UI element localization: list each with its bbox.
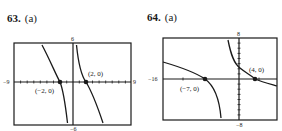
intercept-point bbox=[253, 77, 258, 82]
point-label: (−2, 0) bbox=[35, 87, 55, 95]
ymax-label: 6 bbox=[71, 36, 74, 42]
xmin-label: −9 bbox=[3, 79, 9, 85]
ymin-label: −8 bbox=[236, 122, 242, 128]
curve-left-branch bbox=[42, 45, 68, 123]
intercept-point bbox=[203, 77, 208, 82]
point-label: (2, 0) bbox=[88, 70, 104, 78]
ymax-label: 8 bbox=[237, 31, 240, 37]
xmax-label: 9 bbox=[133, 79, 136, 85]
point-label: (4, 0) bbox=[249, 66, 265, 74]
point-label: (−7, 0) bbox=[180, 85, 200, 93]
intercept-point bbox=[58, 80, 63, 85]
ymin-label: −6 bbox=[70, 126, 76, 131]
curve-right-branch bbox=[77, 45, 104, 123]
graphs: −9 9 6 −6 (−2, 0) (2, 0) −16 bbox=[0, 0, 282, 131]
intercept-point bbox=[84, 80, 89, 85]
graph-64: −16 8 −8 (−7, 0) (4, 0) bbox=[148, 31, 277, 128]
graph-63: −9 9 6 −6 (−2, 0) (2, 0) bbox=[3, 36, 136, 131]
xmin-label: −16 bbox=[148, 76, 157, 82]
